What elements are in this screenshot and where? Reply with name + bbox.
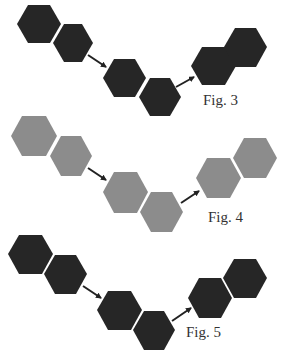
fig3-hexagon [103, 59, 146, 97]
fig4-hexagon [103, 172, 148, 213]
fig4-arrow-1 [88, 168, 106, 180]
fig5-start-pair [8, 235, 87, 294]
fig5-arrow-2 [172, 308, 191, 321]
fig3-hexagon [17, 5, 61, 43]
fig4-hexagon [196, 158, 241, 198]
fig5-end-pair [188, 259, 267, 318]
fig3-hexagon [53, 24, 93, 62]
figure-5: Fig. 5 [8, 235, 267, 350]
fig3-middle-pair [103, 59, 181, 116]
fig3-arrow-1 [88, 55, 106, 67]
fig5-hexagon [44, 255, 87, 294]
fig5-label: Fig. 5 [186, 324, 221, 340]
fig5-arrow-1 [83, 286, 101, 298]
fig3-label: Fig. 3 [203, 92, 238, 108]
hexagon-transition-diagram: Fig. 3 Fig. 4 [0, 0, 286, 354]
fig3-arrow-2 [176, 77, 194, 87]
figure-3: Fig. 3 [17, 5, 267, 116]
fig5-hexagon [133, 311, 175, 350]
fig3-start-pair [17, 5, 93, 62]
fig4-hexagon [233, 138, 277, 178]
fig4-hexagon [50, 136, 92, 176]
fig3-end-pair [191, 28, 267, 85]
fig5-hexagon [223, 259, 267, 298]
fig4-start-pair [11, 116, 92, 176]
fig3-hexagon [139, 78, 181, 116]
fig5-middle-pair [97, 291, 175, 350]
fig4-middle-pair [103, 172, 183, 232]
fig5-hexagon [8, 235, 53, 274]
fig4-hexagon [140, 192, 183, 232]
fig4-end-pair [196, 138, 277, 198]
fig4-arrow-2 [181, 191, 199, 203]
fig5-hexagon [188, 278, 232, 318]
figure-4: Fig. 4 [11, 116, 277, 232]
fig4-label: Fig. 4 [208, 209, 244, 225]
fig4-hexagon [11, 116, 57, 156]
fig5-hexagon [97, 291, 142, 330]
